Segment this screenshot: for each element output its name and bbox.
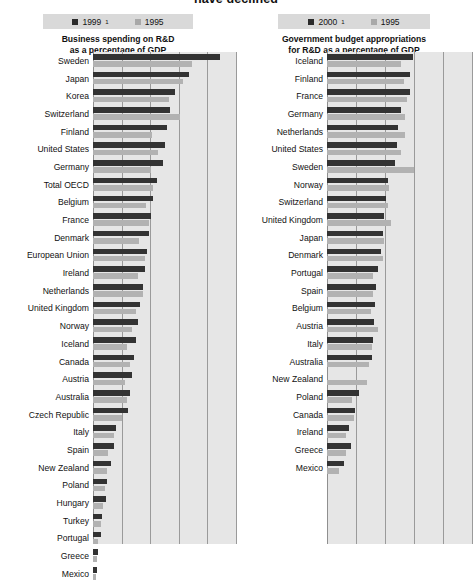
bar-pair <box>327 441 472 459</box>
bar-1999 <box>93 337 136 343</box>
bar-1995 <box>327 468 339 474</box>
category-label-new-zealand: New Zealand <box>236 370 327 388</box>
bar-pair <box>327 370 472 388</box>
bar-1995 <box>93 362 130 368</box>
bar-1995 <box>93 291 143 297</box>
bar-pair <box>327 52 472 70</box>
bar-cell <box>327 247 472 265</box>
bar-2000 <box>327 54 413 60</box>
bar-2000 <box>327 302 375 308</box>
category-label-france: France <box>0 211 93 229</box>
bar-pair <box>93 158 236 176</box>
category-label-portugal: Portugal <box>236 264 327 282</box>
bar-1995 <box>327 380 367 386</box>
bar-1999 <box>93 425 116 431</box>
bar-1995 <box>327 344 372 350</box>
bar-row: Poland <box>236 388 472 406</box>
bar-row: Mexico <box>0 565 236 583</box>
bar-pair <box>327 317 472 335</box>
subtitle-line-1: Business spending on R&D <box>0 34 236 45</box>
bar-cell <box>93 494 236 512</box>
bar-row: United Kingdom <box>236 211 472 229</box>
category-label-sweden: Sweden <box>236 158 327 176</box>
bar-pair <box>93 370 236 388</box>
bar-1995 <box>93 167 151 173</box>
bar-cell <box>93 530 236 548</box>
bar-1995 <box>93 150 158 156</box>
bar-1999 <box>93 142 165 148</box>
bar-1999 <box>93 372 132 378</box>
bar-2000 <box>327 390 359 396</box>
category-label-mexico: Mexico <box>0 565 93 583</box>
bar-cell <box>327 406 472 424</box>
bar-pair <box>327 194 472 212</box>
category-label-australia: Australia <box>236 353 327 371</box>
bar-cell <box>93 247 236 265</box>
legend-swatch-dark-icon <box>72 19 78 25</box>
category-label-iceland: Iceland <box>0 335 93 353</box>
bar-1995 <box>93 574 96 580</box>
panel-government-rd: 20001 1995 Government budget appropriati… <box>236 14 472 56</box>
bar-1999 <box>93 231 149 237</box>
chart-government-rd: IcelandFinlandFranceGermanyNetherlandsUn… <box>236 52 472 544</box>
bar-cell <box>327 123 472 141</box>
bar-row: European Union <box>0 247 236 265</box>
legend-item-2000: 20001 <box>308 17 344 27</box>
bar-cell <box>327 264 472 282</box>
bar-pair <box>93 123 236 141</box>
bar-row: Australia <box>0 388 236 406</box>
bar-row: Spain <box>0 441 236 459</box>
bar-1995 <box>327 97 407 103</box>
bar-cell <box>93 547 236 565</box>
page-headline: have declined <box>0 0 472 6</box>
bar-row: United States <box>0 140 236 158</box>
bar-1999 <box>93 390 130 396</box>
bar-2000 <box>327 160 395 166</box>
bar-pair <box>93 477 236 495</box>
bar-1999 <box>93 532 101 538</box>
bar-2000 <box>327 89 410 95</box>
bar-row: Hungary <box>0 494 236 512</box>
bar-pair <box>93 211 236 229</box>
bar-row: Mexico <box>236 459 472 477</box>
bar-row: Spain <box>236 282 472 300</box>
bar-pair <box>327 176 472 194</box>
category-label-canada: Canada <box>236 406 327 424</box>
category-label-new-zealand: New Zealand <box>0 459 93 477</box>
bar-pair <box>93 547 236 565</box>
bar-cell <box>327 282 472 300</box>
bar-cell <box>93 87 236 105</box>
bar-pair <box>327 105 472 123</box>
bar-pair <box>327 388 472 406</box>
bar-1995 <box>93 556 97 562</box>
bar-row: Ireland <box>236 423 472 441</box>
bar-pair <box>327 70 472 88</box>
bar-1999 <box>93 549 98 555</box>
bar-row: Austria <box>236 317 472 335</box>
bar-1995 <box>327 450 346 456</box>
bar-rows-government-rd: IcelandFinlandFranceGermanyNetherlandsUn… <box>236 52 472 477</box>
bar-1999 <box>93 443 114 449</box>
bar-row: Canada <box>236 406 472 424</box>
bar-pair <box>93 247 236 265</box>
bar-cell <box>327 300 472 318</box>
bar-row: Belgium <box>0 194 236 212</box>
bar-pair <box>327 211 472 229</box>
category-label-denmark: Denmark <box>236 247 327 265</box>
category-label-spain: Spain <box>236 282 327 300</box>
bar-1995 <box>93 397 127 403</box>
bar-pair <box>93 87 236 105</box>
bar-row: Belgium <box>236 300 472 318</box>
bar-cell <box>327 70 472 88</box>
bar-1995 <box>327 167 414 173</box>
bar-cell <box>93 123 236 141</box>
bar-cell <box>327 370 472 388</box>
bar-1995 <box>327 327 378 333</box>
bar-2000 <box>327 319 374 325</box>
bar-pair <box>93 530 236 548</box>
legend-label-1995: 1995 <box>145 17 164 27</box>
bar-row: United Kingdom <box>0 300 236 318</box>
bar-2000 <box>327 231 383 237</box>
bar-1995 <box>327 114 405 120</box>
bar-1999 <box>93 514 102 520</box>
